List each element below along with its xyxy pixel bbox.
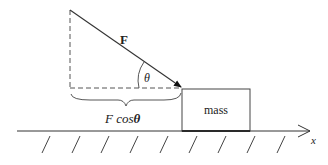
x-axis-label: x (310, 134, 316, 146)
component-label-angle: θ (134, 111, 141, 126)
ground-hatching (42, 136, 285, 153)
component-label: F cosθ (104, 111, 141, 126)
angle-label: θ (144, 71, 150, 85)
brace (71, 93, 181, 106)
mass-label: mass (204, 103, 228, 117)
force-diagram: F θ F cosθ mass x (0, 0, 328, 165)
force-label: F (120, 32, 128, 47)
force-vector-arrow (70, 10, 181, 87)
component-label-prefix: F cos (104, 111, 134, 126)
